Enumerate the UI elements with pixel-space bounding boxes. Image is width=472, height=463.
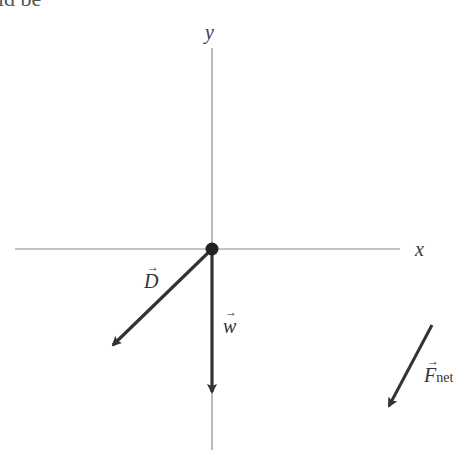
vector-D-label: → D xyxy=(144,270,158,293)
vector-arrow-icon: → xyxy=(427,354,439,369)
y-axis-label: y xyxy=(205,21,214,44)
x-axis-label: x xyxy=(415,238,424,261)
free-body-diagram xyxy=(0,0,472,463)
vector-D-arrow xyxy=(113,249,212,345)
vector-arrow-icon: → xyxy=(147,260,159,275)
vector-Fnet-label: → Fnet xyxy=(424,364,453,387)
vector-arrow-icon: → xyxy=(225,305,237,320)
vector-w-label: → w xyxy=(223,315,236,338)
vector-Fnet-subscript: net xyxy=(436,370,453,385)
origin-dot xyxy=(206,243,219,256)
